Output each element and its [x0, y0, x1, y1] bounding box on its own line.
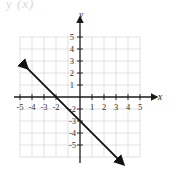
coordinate-plane: -5 -4 -3 -2 1 2 3 4 5 5 4 3 2 1 -2 -3 -4… [0, 0, 173, 172]
y-axis-label: y [78, 10, 84, 20]
x-tick-label: -2 [52, 102, 59, 112]
x-tick-label: -5 [16, 102, 23, 112]
x-tick-labels: -5 -4 -3 -2 1 2 3 4 5 [16, 102, 142, 112]
graph-figure: y (x) [0, 0, 173, 172]
x-axis-label: x [157, 92, 163, 102]
y-tick-label: 3 [70, 56, 74, 66]
y-tick-label: -3 [69, 116, 76, 126]
cropped-header-text: y (x) [6, 0, 76, 12]
x-tick-label: 2 [102, 102, 106, 112]
x-tick-label: -4 [28, 102, 36, 112]
x-tick-label: 1 [90, 102, 94, 112]
x-tick-label: 3 [114, 102, 118, 112]
y-tick-label: -5 [69, 140, 76, 150]
y-tick-label: 5 [70, 32, 74, 42]
y-tick-label: -4 [69, 128, 77, 138]
x-tick-label: -3 [40, 102, 47, 112]
y-tick-label: 1 [70, 80, 74, 90]
x-tick-label: 5 [138, 102, 142, 112]
x-tick-label: 4 [126, 102, 131, 112]
y-tick-labels: 5 4 3 2 1 -2 -3 -4 -5 [69, 32, 77, 150]
y-tick-label: 2 [70, 68, 74, 78]
